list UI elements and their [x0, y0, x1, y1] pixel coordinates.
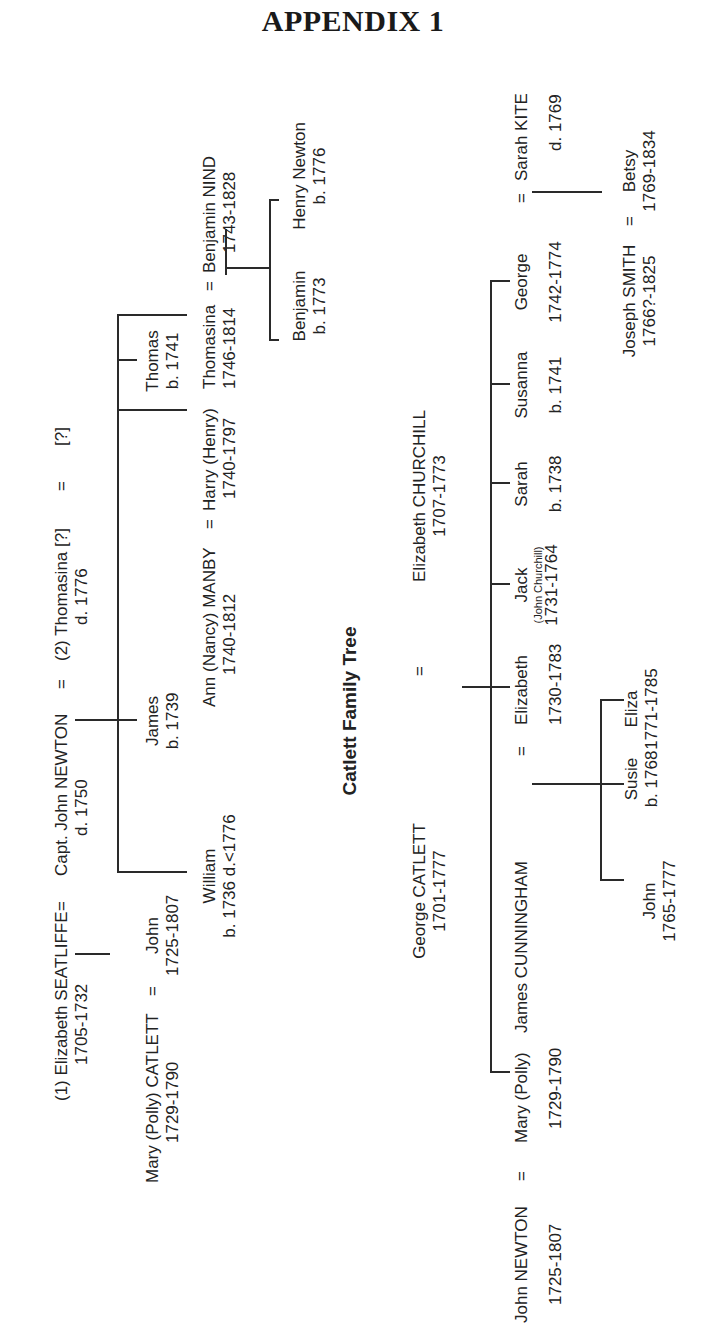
connector-line	[75, 719, 117, 721]
person-sarah: Sarah b. 1738	[512, 456, 566, 513]
connector-line	[600, 783, 624, 785]
connector-line	[600, 699, 624, 701]
connector-line	[490, 583, 510, 585]
person-benjamin: Benjamin b. 1773	[290, 271, 330, 342]
connector-line	[490, 1071, 510, 1073]
connector-line	[117, 409, 187, 411]
person-john: John 1725-1807	[143, 895, 183, 976]
person-thomasina-wife: (2) Thomasina [?] d. 1776	[52, 528, 92, 661]
person-george-catlett: George CATLETT 1701-1777	[410, 823, 450, 959]
equals-sign: =	[512, 193, 532, 203]
person-john-newton: John NEWTON 1725-1807	[512, 1206, 566, 1323]
person-benjamin-nind: Benjamin NIND 1743-1828	[200, 156, 240, 273]
connector-line	[600, 879, 624, 881]
equals-sign: =	[512, 1171, 532, 1181]
connector-line	[490, 482, 510, 484]
connector-line	[532, 783, 600, 785]
equals-sign: =	[200, 281, 220, 291]
catlett-tree-heading: Catlett Family Tree	[340, 627, 360, 796]
equals-sign: =	[52, 679, 72, 689]
connector-line	[117, 359, 137, 361]
person-james-cunningham: James CUNNINGHAM	[512, 861, 532, 1033]
connector-line	[532, 191, 602, 193]
person-capt-john-newton: Capt. John NEWTON d. 1750	[52, 714, 92, 876]
connector-line	[490, 280, 510, 282]
connector-line	[117, 871, 187, 873]
connector-line	[490, 282, 492, 1073]
person-joseph-smith: Joseph SMITH 1766?-1825	[620, 245, 660, 357]
person-mary-polly-catlett: Mary (Polly) CATLETT 1729-1790	[143, 1013, 183, 1183]
person-james: James b. 1739	[143, 693, 183, 750]
person-thomasina: Thomasina 1746-1814	[200, 305, 240, 389]
connector-line	[117, 316, 119, 873]
equals-sign: =	[620, 216, 640, 226]
person-william: William b. 1736 d.<1776	[200, 814, 240, 937]
connector-line	[269, 339, 279, 341]
person-george: George 1742-1774	[512, 241, 566, 322]
equals-sign: =	[52, 901, 72, 911]
connector-line	[269, 199, 279, 201]
equals-sign: =	[200, 519, 220, 529]
person-john-cunningham: John 1765-1777	[640, 860, 680, 941]
person-thomas: Thomas b. 1741	[143, 330, 183, 391]
connector-line	[600, 701, 602, 881]
person-ann-manby: Ann (Nancy) MANBY 1740-1812	[200, 547, 240, 707]
person-elizabeth-seatliffe: (1) Elizabeth SEATLIFFE 1705-1732	[52, 911, 92, 1101]
family-tree-diagram: (1) Elizabeth SEATLIFFE 1705-1732 = Capt…	[0, 0, 706, 1341]
equals-sign: =	[143, 986, 163, 996]
equals-sign: =	[512, 746, 532, 756]
connector-line	[269, 201, 271, 341]
person-betsy: Betsy 1769-1834	[620, 130, 660, 211]
connector-line	[117, 719, 137, 721]
person-unknown-spouse: [?]	[52, 427, 72, 446]
person-elizabeth: Elizabeth 1730-1783	[512, 644, 566, 725]
connector-line	[75, 953, 110, 955]
person-harry: Harry (Henry) 1740-1797	[200, 408, 240, 511]
person-mary-polly: Mary (Polly) 1729-1790	[512, 1048, 566, 1143]
person-sarah-kite: Sarah KITE d. 1769	[512, 93, 566, 181]
connector-line	[462, 686, 490, 688]
person-susanna: Susanna b. 1741	[512, 351, 566, 418]
connector-line	[117, 314, 187, 316]
equals-sign: =	[410, 666, 430, 676]
connector-line	[490, 686, 510, 688]
person-jack: Jack (John Churchill) 1731-1764	[512, 544, 562, 625]
person-henry-newton: Henry Newton b. 1776	[290, 122, 330, 230]
connector-line	[490, 383, 510, 385]
person-elizabeth-churchill: Elizabeth CHURCHILL 1707-1773	[410, 410, 450, 582]
person-eliza: Eliza 1771-1785	[622, 668, 662, 749]
connector-line	[225, 267, 269, 269]
person-susie: Susie b. 1768	[622, 751, 662, 808]
equals-sign: =	[52, 481, 72, 491]
